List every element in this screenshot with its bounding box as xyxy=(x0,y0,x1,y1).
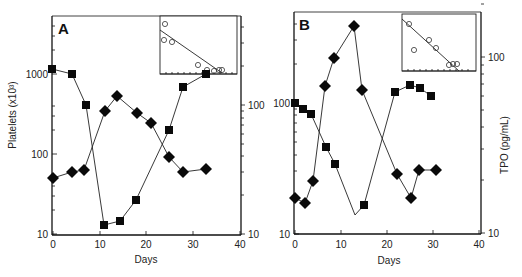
b-right-tick-10: 10 xyxy=(488,228,500,239)
a-left-ticks xyxy=(52,26,57,234)
a-right-tick-10: 10 xyxy=(248,229,260,240)
panel-a-label: A xyxy=(58,20,69,37)
a-x-tick-0: 0 xyxy=(50,239,56,250)
a-left-tick-1000: 1000 xyxy=(26,69,49,80)
a-tpo-markers xyxy=(47,90,212,184)
a-tpo-line xyxy=(53,96,206,178)
a-x-tick-40: 40 xyxy=(234,239,246,250)
a-x-tick-20: 20 xyxy=(140,239,152,250)
a-platelets-line xyxy=(52,69,206,225)
a-left-tick-100: 100 xyxy=(31,149,48,160)
b-x-tick-10: 10 xyxy=(335,239,347,250)
b-inset-scatter xyxy=(402,14,476,71)
b-x-tick-30: 30 xyxy=(427,239,439,250)
b-left-tick-10: 10 xyxy=(279,229,291,240)
a-y-axis-label: Platelets (x10³) xyxy=(7,81,18,148)
b-x-tick-20: 20 xyxy=(381,239,393,250)
b-left-tick-100: 100 xyxy=(273,98,290,109)
b-x-tick-0: 0 xyxy=(292,239,298,250)
panel-a: 0 10 20 30 40 Days 1000 100 10 Platelets… xyxy=(7,16,265,265)
a-x-tick-30: 30 xyxy=(187,239,199,250)
a-platelets-markers xyxy=(48,65,210,229)
a-right-tick-100: 100 xyxy=(248,100,265,111)
b-right-tick-100: 100 xyxy=(488,52,505,63)
a-inset-scatter xyxy=(160,16,237,74)
b-y-axis-label: TPO (pg/mL) xyxy=(499,116,510,174)
a-x-axis-label: Days xyxy=(135,254,158,265)
panel-b-label: B xyxy=(299,16,310,33)
figure: 0 10 20 30 40 Days 1000 100 10 Platelets… xyxy=(0,0,522,277)
panel-b: 0 10 20 30 40 Days 100 10 xyxy=(273,4,510,266)
b-x-tick-40: 40 xyxy=(473,239,485,250)
a-left-tick-10: 10 xyxy=(37,229,49,240)
a-x-tick-10: 10 xyxy=(94,239,106,250)
b-x-axis-label: Days xyxy=(378,255,401,266)
